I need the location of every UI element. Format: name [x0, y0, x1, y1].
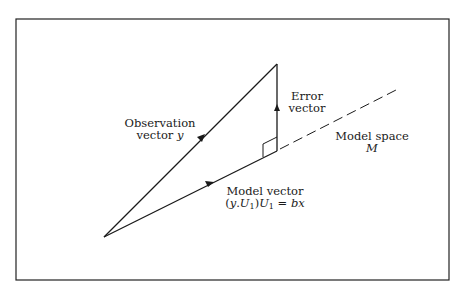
- model-vector-formula: (y.U1)U1 = bx: [222, 197, 308, 213]
- error-vector-label: Error vector: [286, 90, 328, 114]
- model-space-label: Model space M: [334, 130, 410, 154]
- formula-u: U: [240, 196, 250, 210]
- formula-x: x: [298, 196, 305, 210]
- vector-projection-diagram: Observation vector y Error vector Model …: [0, 0, 464, 297]
- observation-vector-label: Observation vector y: [122, 117, 198, 141]
- formula-equals: =: [274, 196, 291, 210]
- model-space-symbol-m: M: [334, 142, 410, 154]
- model-vector-label: Model vector (y.U1)U1 = bx: [222, 185, 308, 213]
- observation-symbol-y: y: [177, 128, 184, 142]
- error-label-line2: vector: [286, 102, 328, 114]
- error-vector-arrow-icon: [274, 104, 280, 111]
- observation-label-line2: vector y: [122, 129, 198, 141]
- formula-u2: U: [259, 196, 269, 210]
- observation-label-text: vector: [137, 128, 177, 142]
